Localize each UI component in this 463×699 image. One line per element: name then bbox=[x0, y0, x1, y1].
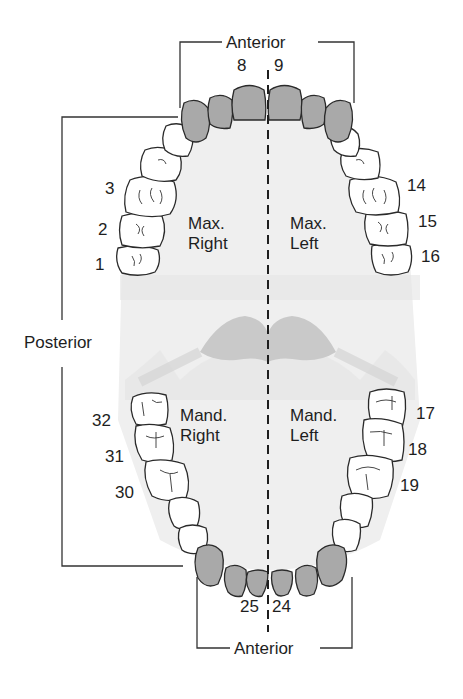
tooth-number-31: 31 bbox=[105, 448, 124, 465]
tooth-3 bbox=[125, 176, 177, 216]
tooth-number-3: 3 bbox=[105, 180, 114, 197]
quadrant-mand-left-line1: Mand. bbox=[290, 406, 337, 426]
tooth-8 bbox=[232, 86, 266, 121]
anterior-top-label: Anterior bbox=[226, 34, 286, 51]
quadrant-mand-left: Mand. Left bbox=[290, 406, 337, 446]
tooth-6 bbox=[181, 100, 209, 142]
tooth-number-19: 19 bbox=[400, 477, 419, 494]
tooth-number-15: 15 bbox=[418, 213, 437, 230]
quadrant-max-left-line1: Max. bbox=[290, 214, 327, 234]
tooth-number-30: 30 bbox=[115, 484, 134, 501]
quadrant-max-right: Max. Right bbox=[188, 214, 228, 254]
tooth-22 bbox=[317, 545, 347, 586]
tooth-1 bbox=[117, 246, 160, 275]
tooth-19 bbox=[347, 455, 393, 498]
quadrant-max-left-line2: Left bbox=[290, 234, 327, 254]
tooth-26 bbox=[224, 565, 246, 596]
tooth-number-8: 8 bbox=[237, 57, 246, 74]
tooth-number-32: 32 bbox=[92, 412, 111, 429]
tooth-14 bbox=[349, 176, 400, 215]
tooth-number-2: 2 bbox=[98, 221, 107, 238]
tooth-16 bbox=[372, 243, 412, 275]
quadrant-max-right-line2: Right bbox=[188, 234, 228, 254]
quadrant-max-right-line1: Max. bbox=[188, 214, 228, 234]
tooth-30 bbox=[145, 460, 189, 501]
posterior-label: Posterior bbox=[24, 334, 92, 351]
tooth-number-9: 9 bbox=[274, 57, 283, 74]
quadrant-mand-right-line1: Mand. bbox=[180, 406, 227, 426]
tooth-11 bbox=[324, 100, 352, 142]
quadrant-mand-right: Mand. Right bbox=[180, 406, 227, 446]
quadrant-mand-right-line2: Right bbox=[180, 426, 227, 446]
tooth-7 bbox=[208, 95, 233, 128]
tooth-number-17: 17 bbox=[416, 405, 435, 422]
tooth-24 bbox=[272, 570, 293, 596]
tooth-31 bbox=[135, 424, 174, 462]
tooth-32 bbox=[131, 393, 168, 426]
tooth-number-25: 25 bbox=[240, 598, 259, 615]
tooth-number-24: 24 bbox=[272, 598, 291, 615]
tooth-9 bbox=[268, 86, 302, 121]
anterior-bottom-label: Anterior bbox=[234, 640, 294, 657]
tooth-number-1: 1 bbox=[95, 256, 104, 273]
tooth-25 bbox=[246, 570, 268, 597]
tooth-10 bbox=[301, 95, 326, 128]
quadrant-mand-left-line2: Left bbox=[290, 426, 337, 446]
tooth-number-18: 18 bbox=[408, 441, 427, 458]
quadrant-max-left: Max. Left bbox=[290, 214, 327, 254]
tooth-27 bbox=[195, 545, 223, 586]
tooth-number-14: 14 bbox=[407, 177, 426, 194]
tooth-23 bbox=[296, 565, 318, 596]
tooth-number-16: 16 bbox=[421, 248, 440, 265]
